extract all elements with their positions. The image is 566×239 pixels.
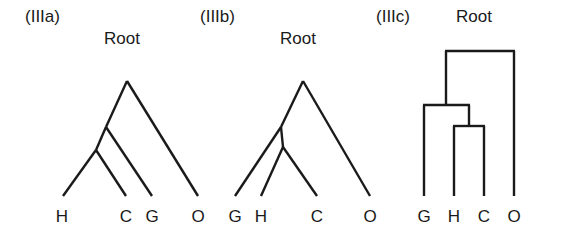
leaf-label-IIIc-C: C	[478, 207, 490, 227]
phylogenetic-tree-figure: (IIIa) Root H C G O (IIIb) Root G H C	[0, 0, 566, 239]
leaf-label-IIIc-H: H	[448, 207, 460, 227]
leaf-label-IIIc-G: G	[417, 207, 430, 227]
tree-diagram-IIIc	[0, 0, 566, 239]
leaf-label-IIIc-O: O	[507, 207, 520, 227]
